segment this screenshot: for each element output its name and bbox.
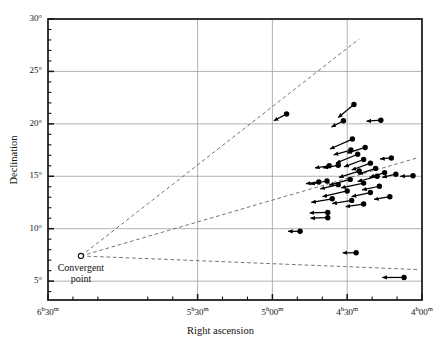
plot-area [0, 0, 441, 347]
x-axis-title: Right ascension [0, 325, 441, 336]
x-tick-label: 4h00m [392, 307, 441, 317]
convergent-point-chart: 5°10°15°20°25°30°6h30m5h30m5h00m4h30m4h0… [0, 0, 441, 347]
y-axis-title: Declination [8, 100, 19, 220]
y-tick-label: 5° [2, 275, 42, 285]
convergent-point-label: Convergent point [39, 262, 123, 284]
y-tick-label: 30° [2, 13, 42, 23]
x-tick-label: 5h00m [242, 307, 302, 317]
x-tick-label: 4h30m [317, 307, 377, 317]
x-tick-label: 6h30m [18, 307, 78, 317]
convergent-point-label-line2: point [39, 273, 123, 284]
convergent-point-label-line1: Convergent [39, 262, 123, 273]
convergent-point-marker [78, 253, 83, 258]
y-tick-label: 10° [2, 223, 42, 233]
x-tick-label: 5h30m [168, 307, 228, 317]
y-tick-label: 25° [2, 65, 42, 75]
